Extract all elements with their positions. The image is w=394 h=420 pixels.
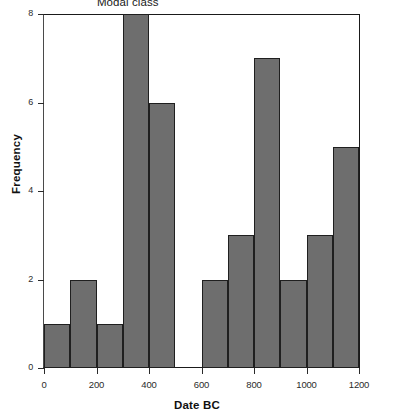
histogram-bar <box>228 235 254 368</box>
y-tick-mark <box>38 14 44 15</box>
histogram-chart: 02468 020040060080010001200 Modal class … <box>0 0 394 420</box>
histogram-bar <box>307 235 333 368</box>
x-axis-title: Date BC <box>0 399 394 411</box>
y-tick-mark <box>38 103 44 104</box>
x-tick-mark <box>359 368 360 374</box>
histogram-bar <box>202 280 228 369</box>
histogram-bar <box>333 147 359 368</box>
histogram-bar <box>149 103 175 369</box>
histogram-bar <box>123 14 149 368</box>
x-tick-label: 1200 <box>339 379 379 390</box>
x-tick-label: 400 <box>129 379 169 390</box>
y-tick-label: 8 <box>13 8 33 18</box>
x-tick-mark <box>307 368 308 374</box>
histogram-bar <box>70 280 96 369</box>
histogram-bar <box>280 280 306 369</box>
x-tick-mark <box>97 368 98 374</box>
x-tick-mark <box>149 368 150 374</box>
modal-class-annotation: Modal class <box>97 0 159 8</box>
x-tick-mark <box>44 368 45 374</box>
bars-layer <box>44 14 360 368</box>
y-tick-label: 0 <box>13 362 33 372</box>
y-tick-mark <box>38 191 44 192</box>
histogram-bar <box>44 324 70 368</box>
x-tick-label: 800 <box>234 379 274 390</box>
histogram-bar <box>254 58 280 368</box>
x-tick-label: 0 <box>24 379 64 390</box>
y-tick-mark <box>38 280 44 281</box>
x-tick-mark <box>254 368 255 374</box>
x-tick-label: 200 <box>77 379 117 390</box>
histogram-bar <box>97 324 123 368</box>
y-axis-title: Frequency <box>10 104 22 224</box>
x-tick-mark <box>202 368 203 374</box>
x-tick-label: 1000 <box>287 379 327 390</box>
x-tick-label: 600 <box>182 379 222 390</box>
y-tick-label: 2 <box>13 274 33 284</box>
